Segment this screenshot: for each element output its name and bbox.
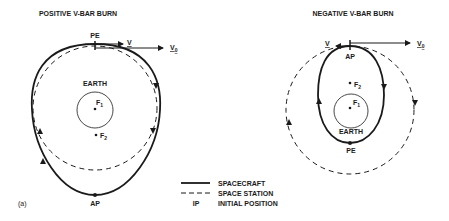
left-f2-point: [95, 134, 98, 137]
left-f2-label: F2: [100, 132, 107, 141]
right-f2-label: F2: [354, 81, 361, 90]
right-pe-point: [348, 141, 352, 145]
right-arrow-outer-right: [412, 100, 418, 106]
right-f2-point: [349, 82, 352, 85]
right-title: NEGATIVE V-BAR BURN: [312, 10, 393, 17]
left-f1-label: F1: [96, 99, 103, 108]
right-f1-point: [349, 107, 352, 110]
positive-vbar-diagram: POSITIVE V-BAR BURN EARTH F1 F2 PE V V0 …: [18, 10, 178, 208]
left-f1-point: [94, 108, 97, 111]
negative-vbar-diagram: NEGATIVE V-BAR BURN EARTH F1 F2 V0 V AP …: [286, 10, 425, 174]
right-earth-label: EARTH: [339, 128, 363, 135]
left-ap-label: AP: [90, 200, 100, 207]
right-v-label: V: [325, 40, 330, 47]
panel-label: (a): [18, 200, 27, 208]
right-pe-label: PE: [346, 147, 356, 154]
orbit-diagram: POSITIVE V-BAR BURN EARTH F1 F2 PE V V0 …: [0, 0, 449, 221]
right-station-orbit: [286, 46, 414, 174]
right-ap-label: AP: [345, 53, 355, 60]
legend-initial-position: INITIAL POSITION: [218, 200, 278, 207]
left-v-label: V: [127, 39, 132, 46]
right-arrow-inner-right: [381, 84, 387, 90]
right-v0-label: V0: [417, 40, 425, 49]
left-ap-point: [93, 193, 97, 197]
left-arrow-left-upper: [37, 128, 43, 134]
right-f1-label: F1: [353, 99, 360, 108]
legend-spacecraft: SPACECRAFT: [218, 180, 266, 187]
left-v0-label: V0: [170, 44, 178, 53]
right-earth: [334, 94, 368, 128]
legend: SPACECRAFT SPACE STATION IP INITIAL POSI…: [181, 180, 278, 207]
left-earth-label: EARTH: [83, 80, 107, 87]
right-arrow-inner-left: [316, 98, 322, 104]
legend-ip-symbol: IP: [193, 200, 200, 207]
legend-space-station: SPACE STATION: [218, 190, 273, 197]
left-title: POSITIVE V-BAR BURN: [39, 10, 117, 17]
left-arrow-right-lower: [150, 128, 156, 134]
left-pe-label: PE: [90, 32, 100, 39]
